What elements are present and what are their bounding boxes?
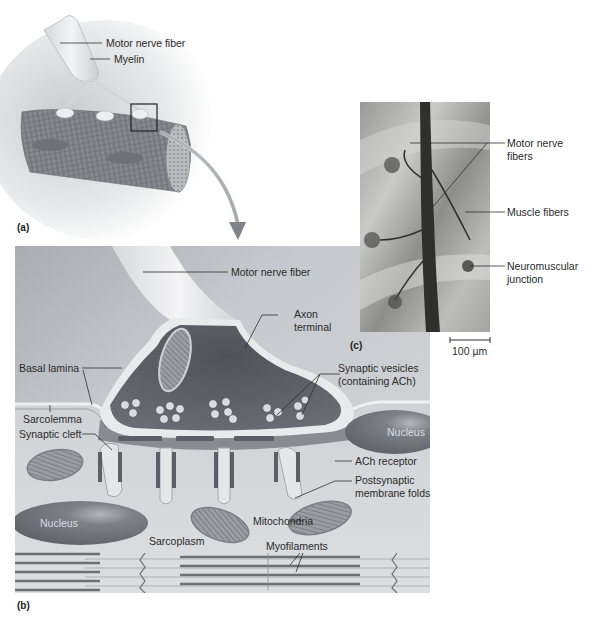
label-muscle-fibers: Muscle fibers: [507, 206, 569, 219]
label-axon-terminal-2: terminal: [294, 321, 331, 334]
label-neuromuscular-2: junction: [507, 273, 543, 286]
label-motor-nerve-fiber-b: Motor nerve fiber: [231, 266, 310, 279]
label-motor-nerve-fibers-1: Motor nerve: [507, 137, 563, 150]
label-synaptic-vesicles-2: (containing ACh): [338, 375, 416, 388]
panel-c-micrograph: [360, 102, 505, 343]
label-sarcolemma: Sarcolemma: [23, 413, 82, 426]
panel-tag-a: (a): [17, 222, 29, 233]
label-postsynaptic-1: Postsynaptic: [355, 474, 415, 487]
label-ach-receptor: ACh receptor: [355, 455, 417, 468]
label-neuromuscular-1: Neuromuscular: [507, 260, 578, 273]
label-myofilaments: Myofilaments: [266, 540, 328, 553]
label-motor-nerve-fiber-a: Motor nerve fiber: [106, 37, 185, 50]
label-sarcoplasm: Sarcoplasm: [149, 535, 204, 548]
label-myelin: Myelin: [114, 53, 144, 66]
label-postsynaptic-2: membrane folds: [355, 487, 430, 500]
label-axon-terminal-1: Axon: [294, 308, 318, 321]
neuromuscular-junction-figure: Motor nerve fiber Myelin (a) Motor nerve…: [0, 0, 594, 627]
label-basal-lamina: Basal lamina: [19, 362, 79, 375]
label-motor-nerve-fibers-2: fibers: [507, 150, 533, 163]
label-nucleus-left: Nucleus: [40, 517, 78, 530]
label-mitochondria: Mitochondria: [253, 515, 313, 528]
scale-bar-label: 100 µm: [452, 345, 487, 358]
panel-tag-c: (c): [350, 340, 362, 351]
label-synaptic-cleft: Synaptic cleft: [19, 428, 81, 441]
label-synaptic-vesicles-1: Synaptic vesicles: [338, 362, 419, 375]
label-nucleus-right: Nucleus: [387, 426, 425, 439]
panel-tag-b: (b): [17, 600, 30, 611]
